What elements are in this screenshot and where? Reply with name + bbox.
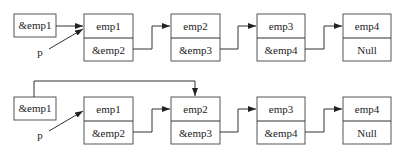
node-emp1: emp1 &emp2 [84, 14, 133, 61]
link-arrow [305, 26, 342, 49]
node-emp1: emp1 &emp2 [84, 97, 133, 144]
node-next: Null [357, 127, 377, 139]
node-data: emp2 [183, 103, 207, 115]
node-next: &emp4 [265, 44, 298, 56]
node-emp4: emp4 Null [343, 97, 391, 144]
node-data: emp4 [355, 103, 380, 115]
node-emp3: emp3 &emp4 [257, 14, 305, 61]
node-emp2: emp2 &emp3 [171, 14, 220, 61]
head-pointer-label: &emp1 [19, 102, 52, 114]
link-arrow [133, 26, 170, 49]
node-next: &emp2 [92, 44, 125, 56]
pointer-p-label: p [37, 46, 43, 58]
head-pointer-label: &emp1 [19, 19, 52, 31]
pointer-p-label: p [37, 129, 43, 141]
link-arrow [220, 109, 256, 132]
node-emp3: emp3 &emp4 [257, 97, 305, 144]
diagram-before: &emp1 p emp1 &emp2 emp2 &emp3 emp3 &emp4 [14, 14, 391, 61]
node-data: emp3 [269, 20, 294, 32]
node-next: &emp2 [92, 127, 125, 139]
node-data: emp3 [269, 103, 294, 115]
head-pointer-box: &emp1 [14, 97, 56, 120]
node-next: &emp4 [265, 127, 298, 139]
node-data: emp1 [96, 103, 120, 115]
diagram-after: &emp1 p emp1 &emp2 emp2 &emp3 emp3 &emp4 [14, 81, 391, 144]
link-arrow [220, 26, 256, 49]
node-data: emp1 [96, 20, 120, 32]
node-next: &emp3 [179, 44, 212, 56]
node-next: Null [357, 44, 377, 56]
node-emp2: emp2 &emp3 [171, 97, 220, 144]
head-pointer-box: &emp1 [14, 14, 56, 37]
node-data: emp4 [355, 20, 380, 32]
node-next: &emp3 [179, 127, 212, 139]
node-emp4: emp4 Null [343, 14, 391, 61]
link-arrow [305, 109, 342, 132]
node-data: emp2 [183, 20, 207, 32]
link-arrow [133, 109, 170, 132]
linked-list-diagram: &emp1 p emp1 &emp2 emp2 &emp3 emp3 &emp4 [0, 0, 402, 153]
head-bypass-arrow [34, 81, 195, 97]
